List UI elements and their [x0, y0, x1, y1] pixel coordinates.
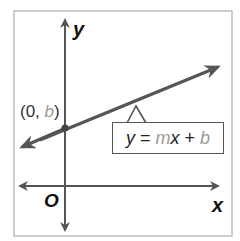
intercept-label-open: (0, [20, 102, 45, 121]
y-intercept-point [61, 124, 68, 131]
y-axis-label: y [73, 19, 84, 39]
eq-equals: = [140, 128, 151, 149]
equation-callout: y = mx + b [112, 122, 224, 154]
callout-pointer [127, 106, 146, 123]
eq-b: b [200, 128, 210, 149]
linear-function-line-left-arrow [22, 128, 66, 147]
eq-m: m [155, 128, 170, 149]
origin-label: O [44, 191, 59, 210]
intercept-label: (0, b) [20, 103, 60, 120]
eq-x: x [170, 128, 179, 149]
intercept-label-close: ) [54, 102, 60, 121]
eq-y: y [126, 128, 135, 149]
intercept-label-b: b [45, 102, 54, 121]
eq-plus: + [184, 128, 195, 149]
x-axis-label: x [212, 195, 223, 215]
